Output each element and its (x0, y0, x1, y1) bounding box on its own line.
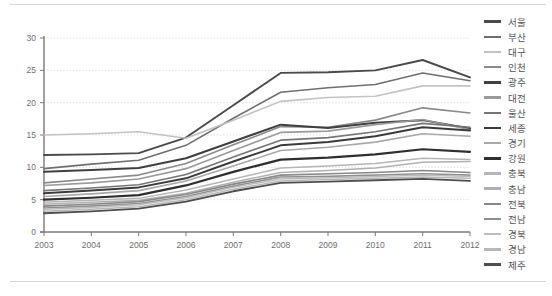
legend-label: 경북 (508, 227, 526, 241)
legend-swatch-icon (484, 203, 501, 205)
legend-item[interactable]: 인천 (484, 60, 550, 75)
y-tick-label: 0 (31, 227, 36, 237)
x-tick-label: 2004 (82, 240, 101, 250)
legend-swatch-icon (484, 127, 501, 130)
legend-swatch-icon (484, 263, 501, 265)
legend-label: 경기 (508, 136, 526, 150)
legend-swatch-icon (484, 81, 501, 84)
y-tick-label: 30 (27, 33, 37, 43)
legend-item[interactable]: 광주 (484, 75, 550, 90)
chart-page: 0510152025302003200420052006200720082009… (0, 0, 552, 296)
legend-swatch-icon (484, 187, 501, 189)
legend-label: 인천 (508, 60, 526, 74)
legend-label: 강원 (508, 151, 526, 165)
legend-swatch-icon (484, 112, 501, 114)
legend-item[interactable]: 대구 (484, 44, 550, 59)
y-tick-label: 15 (27, 130, 37, 140)
legend-item[interactable]: 부산 (484, 29, 550, 44)
legend-item[interactable]: 서울 (484, 14, 550, 29)
x-tick-label: 2009 (319, 240, 338, 250)
legend-label: 대구 (508, 45, 526, 59)
legend-label: 제주 (508, 258, 526, 272)
x-tick-label: 2003 (35, 240, 54, 250)
legend-label: 경남 (508, 242, 526, 256)
x-tick-label: 2006 (177, 240, 196, 250)
chart-legend: 서울부산대구인천광주대전울산세종경기강원충북충남전북전남경북경남제주 (484, 14, 550, 276)
x-tick-label: 2012 (461, 240, 480, 250)
legend-item[interactable]: 울산 (484, 105, 550, 120)
y-tick-label: 5 (31, 195, 36, 205)
legend-item[interactable]: 경남 (484, 242, 550, 257)
legend-label: 대전 (508, 91, 526, 105)
legend-label: 충남 (508, 182, 526, 196)
legend-swatch-icon (484, 96, 501, 98)
x-tick-label: 2011 (414, 240, 433, 250)
legend-label: 전남 (508, 212, 526, 226)
legend-label: 세종 (508, 121, 526, 135)
legend-label: 광주 (508, 75, 526, 89)
legend-item[interactable]: 전남 (484, 211, 550, 226)
legend-item[interactable]: 충남 (484, 181, 550, 196)
x-tick-label: 2010 (366, 240, 385, 250)
legend-swatch-icon (484, 157, 501, 160)
line-chart: 0510152025302003200420052006200720082009… (0, 0, 480, 270)
legend-item[interactable]: 세종 (484, 120, 550, 135)
legend-item[interactable]: 충북 (484, 166, 550, 181)
legend-swatch-icon (484, 172, 501, 174)
legend-label: 전북 (508, 197, 526, 211)
legend-swatch-icon (484, 142, 501, 144)
legend-item[interactable]: 경북 (484, 227, 550, 242)
legend-swatch-icon (484, 36, 501, 38)
legend-item[interactable]: 대전 (484, 90, 550, 105)
y-tick-label: 10 (27, 162, 37, 172)
legend-swatch-icon (484, 51, 501, 53)
legend-swatch-icon (484, 20, 501, 23)
legend-label: 부산 (508, 30, 526, 44)
x-tick-label: 2008 (271, 240, 290, 250)
legend-swatch-icon (484, 233, 501, 235)
y-tick-label: 25 (27, 65, 37, 75)
legend-item[interactable]: 제주 (484, 257, 550, 272)
x-tick-label: 2007 (224, 240, 243, 250)
chart-canvas: 0510152025302003200420052006200720082009… (0, 0, 480, 270)
legend-item[interactable]: 강원 (484, 151, 550, 166)
legend-label: 울산 (508, 106, 526, 120)
page-bottom-rule (10, 281, 546, 282)
legend-item[interactable]: 경기 (484, 136, 550, 151)
legend-label: 충북 (508, 166, 526, 180)
legend-swatch-icon (484, 218, 501, 220)
legend-swatch-icon (484, 248, 501, 250)
y-tick-label: 20 (27, 98, 37, 108)
legend-item[interactable]: 전북 (484, 196, 550, 211)
x-tick-label: 2005 (129, 240, 148, 250)
legend-label: 서울 (508, 15, 526, 29)
legend-swatch-icon (484, 66, 501, 68)
